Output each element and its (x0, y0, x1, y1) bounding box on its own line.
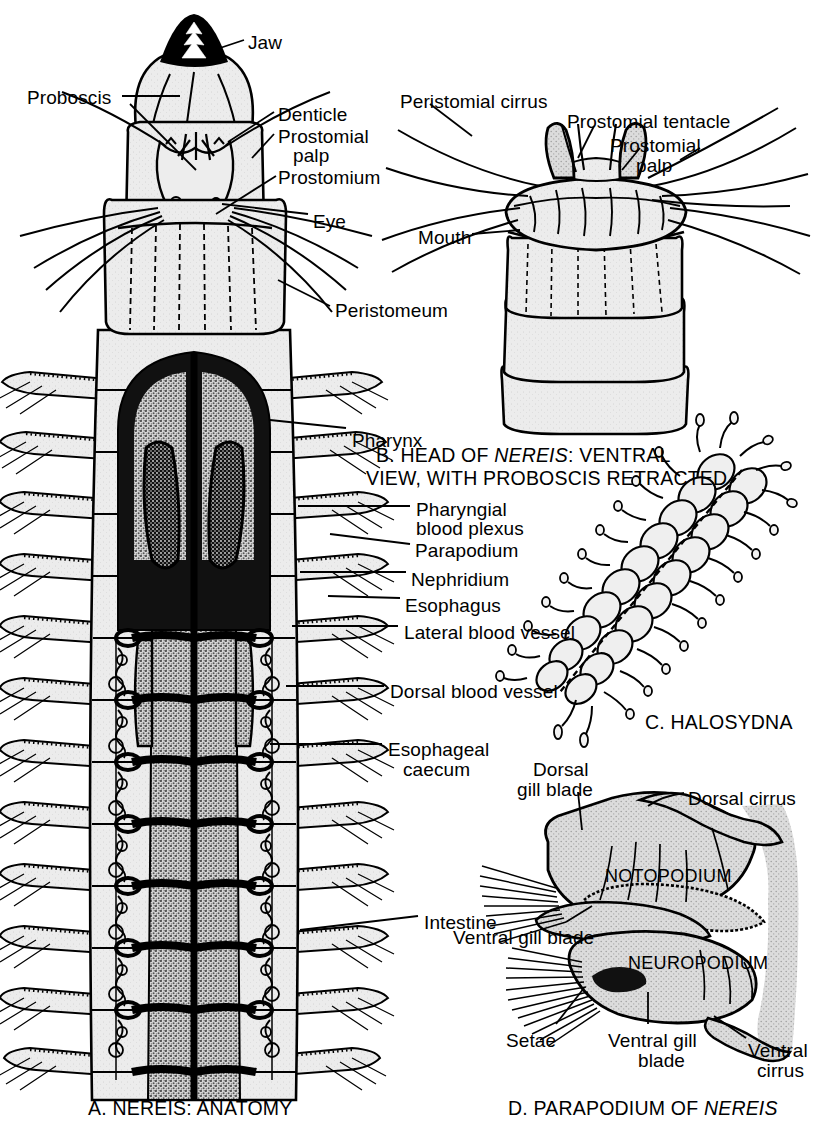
caption-panel-d: D. PARAPODIUM OF NEREIS (508, 1097, 778, 1120)
figure-plate: Proboscis Jaw Denticle Prostomial palp P… (0, 0, 830, 1135)
label-prostomial-palp-b-line2: palp (636, 156, 672, 176)
label-ventral-gill-blade-line2: blade (638, 1051, 685, 1071)
label-esophageal-caecum-line2: caecum (403, 760, 470, 780)
label-jaw: Jaw (248, 33, 282, 53)
caption-panel-a: A. NEREIS: ANATOMY (88, 1097, 292, 1120)
caption-b-prefix: B. HEAD OF (376, 444, 494, 466)
label-pharyngial-blood-plexus-line2: blood plexus (416, 519, 524, 539)
label-esophagus: Esophagus (405, 596, 501, 616)
label-prostomial-tentacle: Prostomial tentacle (567, 112, 730, 132)
caption-panel-c: C. HALOSYDNA (645, 711, 793, 734)
label-ventral-gill-blade-upper: Ventral gill blade (453, 928, 594, 948)
label-esophageal-caecum-line1: Esophageal (388, 740, 489, 760)
caption-b-suffix: : VENTRAL (568, 444, 671, 466)
label-prostomial-palp-b-line1: Prostomial (610, 136, 701, 156)
label-neuropodium: NEUROPODIUM (628, 953, 768, 974)
parapodia-left-setae (0, 382, 56, 1090)
label-parapodium: Parapodium (415, 541, 518, 561)
caption-b-genus: NEREIS (494, 444, 568, 466)
label-mouth: Mouth (418, 228, 471, 248)
label-dorsal-blood-vessel: Dorsal blood vessel (390, 682, 558, 702)
label-peristomeum: Peristomeum (335, 301, 448, 321)
label-prostomium: Prostomium (278, 168, 380, 188)
caption-panel-b-line2: VIEW, WITH PROBOSCIS RETRACTED (366, 467, 727, 490)
label-dorsal-gill-blade-line1: Dorsal (533, 760, 589, 780)
label-ventral-gill-blade-line1: Ventral gill (608, 1031, 697, 1051)
label-prostomial-palp-line1: Prostomial (278, 127, 369, 147)
label-nephridium: Nephridium (411, 570, 509, 590)
label-setae: Setae (506, 1031, 556, 1051)
caption-d-prefix: D. PARAPODIUM OF (508, 1097, 704, 1119)
label-peristomial-cirrus: Peristomial cirrus (400, 92, 548, 112)
label-ventral-cirrus-line2: cirrus (757, 1061, 804, 1081)
c-midline (560, 470, 742, 692)
pharyngial-blood-plexus-right (209, 442, 244, 568)
caption-panel-b-line1: B. HEAD OF NEREIS: VENTRAL (376, 444, 671, 467)
label-pharyngial-blood-plexus-line1: Pharyngial (416, 500, 507, 520)
caption-d-genus: NEREIS (704, 1097, 778, 1119)
label-notopodium: NOTOPODIUM (605, 866, 732, 887)
label-denticle: Denticle (278, 105, 347, 125)
panel-b-head-ventral (382, 104, 810, 434)
label-ventral-cirrus-line1: Ventral (748, 1041, 808, 1061)
label-lateral-blood-vessel: Lateral blood vessel (404, 623, 575, 643)
label-eye: Eye (313, 212, 346, 232)
b-mouth-lip (506, 178, 686, 250)
label-prostomial-palp-line2: palp (293, 146, 329, 166)
pharyngial-blood-plexus-left (144, 442, 179, 568)
label-dorsal-cirrus: Dorsal cirrus (688, 789, 796, 809)
label-dorsal-gill-blade-line2: gill blade (517, 780, 593, 800)
label-proboscis: Proboscis (27, 88, 111, 108)
